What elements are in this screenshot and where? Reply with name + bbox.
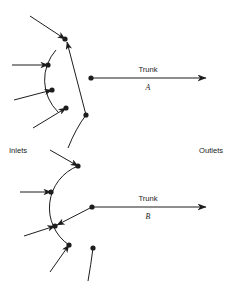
- diagram-b-group: Trunk B: [20, 150, 206, 281]
- trunk-a-label: Trunk: [138, 65, 157, 74]
- inlet-line-b-3: [24, 226, 55, 236]
- junction-node-b-2: [48, 189, 53, 194]
- trunk-node-a: [88, 75, 93, 80]
- diagram-canvas: Trunk A Inlets Outlets: [0, 0, 240, 285]
- junction-node-b-3: [52, 223, 57, 228]
- junction-node-a-2: [45, 62, 50, 67]
- diagram-a-group: Trunk A: [12, 16, 206, 148]
- manifold-diagram-figure: Trunk A Inlets Outlets: [0, 0, 240, 285]
- inlets-label: Inlets: [9, 146, 27, 155]
- outlets-label: Outlets: [199, 146, 223, 155]
- inlet-line-a-4: [33, 108, 66, 128]
- return-tail-a: [68, 115, 86, 148]
- return-tail-b: [88, 248, 93, 281]
- inlet-line-a-3: [14, 90, 52, 100]
- inlet-line-b-4: [50, 245, 69, 272]
- trunk-b-label: Trunk: [138, 194, 157, 203]
- inlet-line-b-1: [50, 150, 78, 166]
- return-branch-b: [57, 207, 92, 225]
- return-node-b: [90, 245, 95, 250]
- junction-node-a-4: [63, 105, 68, 110]
- manifold-arc-b: [49, 166, 78, 245]
- inlet-line-a-1: [30, 16, 65, 39]
- trunk-node-b: [89, 204, 94, 209]
- junction-node-a-3: [49, 87, 54, 92]
- trunk-b-identifier: B: [146, 212, 151, 221]
- return-branch-a: [67, 42, 86, 115]
- trunk-a-identifier: A: [145, 83, 151, 92]
- junction-node-b-4: [66, 242, 71, 247]
- junction-node-b-1: [75, 163, 80, 168]
- junction-node-a-1: [62, 36, 67, 41]
- manifold-arc-a: [45, 50, 58, 112]
- return-node-a: [83, 112, 88, 117]
